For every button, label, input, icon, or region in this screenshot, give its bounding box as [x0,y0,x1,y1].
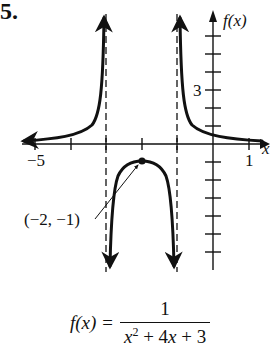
middle-branch [110,161,174,266]
formula-numerator: 1 [156,298,174,322]
x-tick-label-minus-5: −5 [27,152,45,169]
left-branch [24,18,104,141]
function-graph [0,0,273,290]
formula-fraction: 1 x2 + 4x + 3 [120,298,210,348]
function-formula: f(x) = 1 x2 + 4x + 3 [70,298,210,348]
x-axis-label: x [262,140,270,157]
y-axis [205,10,221,270]
x-tick-label-1: 1 [245,152,254,169]
vertex-label: (−2, −1) [24,211,80,228]
y-axis-arrow-icon [209,10,217,22]
formula-lhs: f(x) = [70,312,114,334]
vertex-point [138,157,145,164]
y-axis-label: f(x) [223,12,247,29]
annotation-pointer [95,165,138,219]
formula-denominator: x2 + 4x + 3 [120,322,210,348]
y-tick-label-3: 3 [193,82,202,99]
